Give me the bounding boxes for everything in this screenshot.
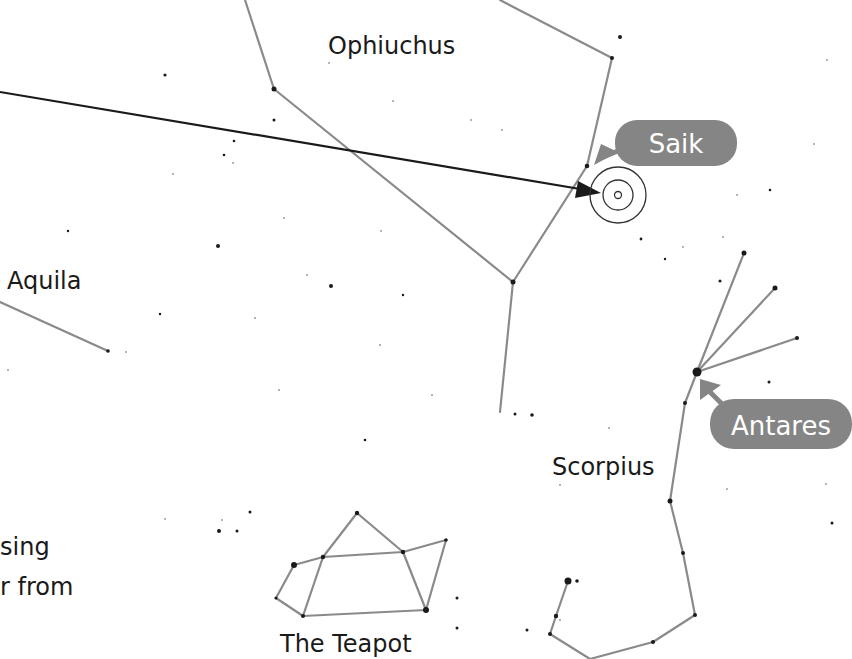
aquila-label: Aquila	[7, 267, 81, 295]
caption-line-1: sing	[0, 533, 50, 561]
saik-target-icon	[590, 167, 646, 223]
teapot-lines	[276, 513, 446, 616]
antares-callout: Antares	[700, 379, 852, 449]
saik-label: Saik	[649, 129, 704, 159]
antares-label: Antares	[731, 411, 831, 441]
ophiuchus-label: Ophiuchus	[328, 32, 455, 60]
star-chart: Saik Antares Ophiuchus Aquila Scorpius T…	[0, 0, 852, 659]
scorpius-label: Scorpius	[552, 453, 655, 481]
pointer-arrow	[0, 92, 601, 198]
saik-callout: Saik	[594, 120, 737, 166]
aquila-lines	[0, 302, 108, 351]
ophiuchus-lines	[245, 0, 612, 412]
teapot-label: The Teapot	[279, 630, 412, 658]
caption-line-2: r from	[0, 573, 73, 601]
